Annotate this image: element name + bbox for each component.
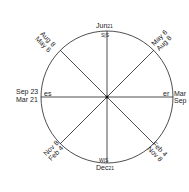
cross-quarter-ur [107,50,154,97]
cross-quarter-ll [60,97,107,144]
label-bottom-date: Dec21 [96,164,114,172]
label-right-line1: Mar [174,90,186,97]
cross-quarter-lr [107,97,154,144]
center-dot [106,96,109,99]
cross-quarter-ul [60,50,107,97]
label-right-mark: er [163,90,169,97]
label-left-mark: es [44,90,51,97]
label-left-line2: Mar 21 [16,96,38,103]
label-top-date: Jun21 [96,22,113,30]
label-left-line1: Sep 23 [16,88,38,95]
label-top-marks: S|S [101,32,109,39]
label-right-line2: Sep [174,97,186,104]
label-bottom-marks: W|S [99,157,108,164]
